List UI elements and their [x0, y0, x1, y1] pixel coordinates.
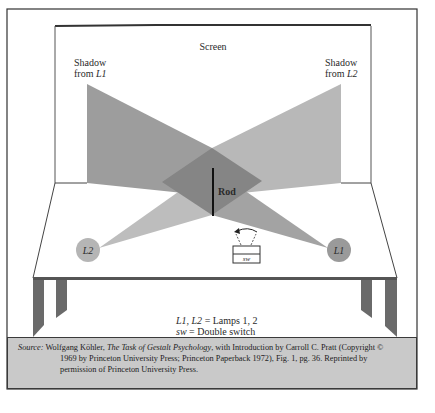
- lamp-l2-label: L2: [82, 245, 94, 256]
- rod-label: Rod: [218, 186, 236, 197]
- screen-label: Screen: [199, 41, 226, 52]
- switch-label: sw: [243, 255, 251, 263]
- caption-line3: permission of Princeton University Press…: [18, 364, 410, 375]
- legend-line2: sw = Double switch: [176, 326, 255, 337]
- shadow-l1-label-line2: from L1: [74, 68, 107, 79]
- caption-line2: 1969 by Princeton University Press; Prin…: [18, 353, 410, 364]
- shadow-l1-label-line1: Shadow: [74, 57, 107, 68]
- switch-arrow-icon: [234, 228, 240, 234]
- caption-line1: Source: Wolfgang Köhler, The Task of Ges…: [18, 342, 410, 353]
- source-caption: Source: Wolfgang Köhler, The Task of Ges…: [7, 337, 417, 389]
- shadow-l2-label-line2: from L2: [325, 68, 358, 79]
- figure: Screen Shadow from L1 Shadow from L2 Rod…: [0, 0, 435, 413]
- shadow-l2-label-line1: Shadow: [325, 57, 358, 68]
- lamp-l1-label: L1: [333, 245, 345, 256]
- legend-line1: L1, L2 = Lamps 1, 2: [175, 315, 257, 326]
